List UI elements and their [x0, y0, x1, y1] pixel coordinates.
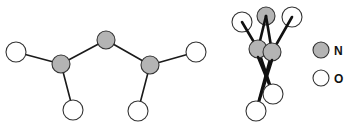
- molecule-diagram: N O: [0, 0, 352, 128]
- left-atom-nitrogen-N3: [141, 56, 159, 74]
- legend: N O: [313, 42, 343, 86]
- left-atom-nitrogen-N2: [97, 31, 115, 49]
- right-atom-oxygen-O3: [263, 84, 283, 104]
- left-atom-oxygen-O4: [186, 42, 206, 62]
- left-molecule-bonds: [16, 40, 196, 111]
- left-atom-oxygen-O3: [128, 101, 148, 121]
- legend-nitrogen-swatch: [313, 42, 329, 58]
- left-molecule-atoms: [6, 31, 206, 121]
- right-molecule-atoms: [246, 40, 283, 121]
- right-atom-oxygen-O2: [246, 101, 266, 121]
- left-atom-oxygen-O1: [6, 42, 26, 62]
- right-atom-nitrogen-N3: [263, 43, 281, 61]
- left-atom-nitrogen-N1: [52, 55, 70, 73]
- legend-oxygen-swatch: [313, 70, 329, 86]
- left-atom-oxygen-O2: [63, 100, 83, 120]
- legend-nitrogen-label: N: [334, 44, 343, 58]
- legend-oxygen-label: O: [334, 72, 343, 86]
